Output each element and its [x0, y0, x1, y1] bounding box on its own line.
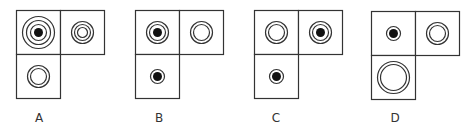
option-d[interactable]	[372, 12, 460, 100]
option-label-b[interactable]: B	[155, 111, 163, 125]
filled-dot-icon	[153, 72, 162, 81]
filled-dot-icon	[34, 28, 43, 37]
filled-dot-icon	[389, 29, 398, 38]
filled-dot-icon	[153, 28, 162, 37]
option-c[interactable]	[255, 11, 343, 99]
cell-bottom-left	[17, 55, 61, 99]
option-label-a[interactable]: A	[35, 111, 43, 125]
cell-top-right	[61, 11, 105, 55]
option-a[interactable]	[17, 11, 105, 99]
option-label-d[interactable]: D	[390, 111, 399, 125]
cell-top-right	[180, 11, 224, 55]
option-label-c[interactable]: C	[272, 111, 280, 125]
cell-top-right	[416, 12, 460, 56]
filled-dot-icon	[316, 28, 325, 37]
cell-top-left	[255, 11, 299, 55]
filled-dot-icon	[272, 72, 281, 81]
option-b[interactable]	[136, 11, 224, 99]
